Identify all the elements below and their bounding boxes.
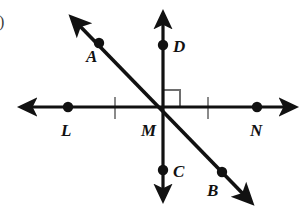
label-N: N xyxy=(249,121,263,140)
geometry-figure: A B C D L M N ) xyxy=(0,0,304,215)
point-C xyxy=(158,165,168,175)
label-B: B xyxy=(206,181,218,200)
label-L: L xyxy=(60,121,71,140)
point-D xyxy=(158,40,168,50)
point-B xyxy=(217,167,227,177)
label-D: D xyxy=(172,37,185,56)
point-L xyxy=(63,102,73,112)
label-C: C xyxy=(173,162,185,181)
label-A: A xyxy=(85,47,97,66)
point-N xyxy=(252,102,262,112)
geometry-canvas: A B C D L M N ) xyxy=(0,0,304,215)
label-M: M xyxy=(140,121,157,140)
list-item-marker: ) xyxy=(0,13,4,31)
